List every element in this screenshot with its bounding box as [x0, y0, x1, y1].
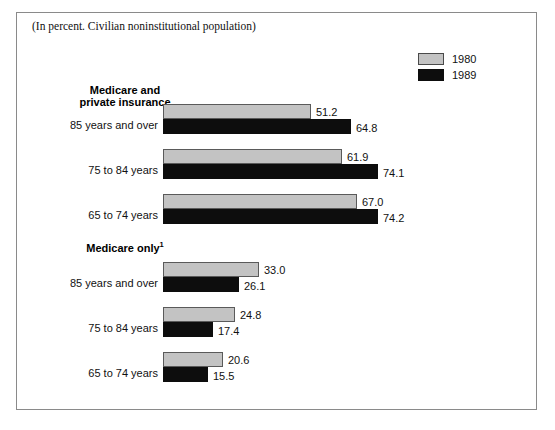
bar-1980-g1-75-84 — [163, 149, 342, 164]
bar-value-1989-g1-85-and-over: 64.8 — [356, 122, 377, 135]
bar-value-1980-g2-75-84: 24.8 — [240, 309, 261, 322]
bar-1989-g2-85-and-over — [163, 277, 239, 292]
row-label-g2-85-and-over: 85 years and over — [70, 277, 158, 290]
row-label-g2-75-84: 75 to 84 years — [88, 322, 158, 335]
bar-value-1980-g2-65-74: 20.6 — [228, 354, 249, 367]
bar-value-1980-g1-75-84: 61.9 — [347, 151, 368, 164]
bar-value-1989-g1-75-84: 74.1 — [383, 167, 404, 180]
bar-1980-g1-85-and-over — [163, 104, 311, 119]
group-header-medicare-private: Medicare and private insurance — [79, 84, 170, 108]
bar-value-1980-g1-85-and-over: 51.2 — [316, 106, 337, 119]
bar-1980-g1-65-74 — [163, 194, 357, 209]
chart-plot-area: Medicare and private insurance 85 years … — [0, 0, 555, 430]
group-header-medicare-only: Medicare only1 — [86, 242, 164, 254]
bar-1980-g2-65-74 — [163, 352, 223, 367]
chart-figure: (In percent. Civilian noninstitutional p… — [0, 0, 555, 430]
bar-1989-g2-65-74 — [163, 367, 208, 382]
group-header-line2: private insurance — [79, 96, 170, 108]
group-header-text: Medicare only — [86, 242, 159, 254]
bar-value-1980-g2-85-and-over: 33.0 — [264, 264, 285, 277]
row-label-g1-75-84: 75 to 84 years — [88, 164, 158, 177]
row-label-g1-85-and-over: 85 years and over — [70, 119, 158, 132]
row-label-g2-65-74: 65 to 74 years — [88, 367, 158, 380]
group-header-line1: Medicare and — [79, 84, 170, 96]
footnote-marker: 1 — [160, 240, 164, 249]
bar-value-1989-g1-65-74: 74.2 — [383, 212, 404, 225]
bar-value-1989-g2-75-84: 17.4 — [218, 325, 239, 338]
bar-value-1989-g2-85-and-over: 26.1 — [244, 280, 265, 293]
bar-1989-g1-85-and-over — [163, 119, 351, 134]
bar-value-1980-g1-65-74: 67.0 — [362, 196, 383, 209]
bar-1980-g2-85-and-over — [163, 262, 259, 277]
bar-value-1989-g2-65-74: 15.5 — [213, 370, 234, 383]
bar-1989-g1-75-84 — [163, 164, 378, 179]
bar-1989-g2-75-84 — [163, 322, 213, 337]
bar-1980-g2-75-84 — [163, 307, 235, 322]
bar-1989-g1-65-74 — [163, 209, 378, 224]
row-label-g1-65-74: 65 to 74 years — [88, 209, 158, 222]
